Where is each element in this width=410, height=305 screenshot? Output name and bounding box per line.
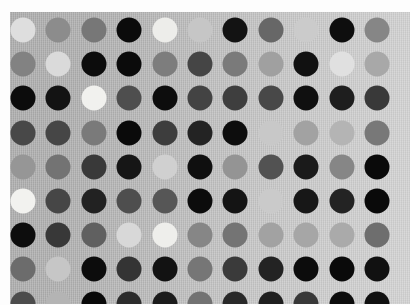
dot-r9c2 xyxy=(46,291,71,304)
dot-r6c3 xyxy=(81,189,106,214)
dot-r5c2 xyxy=(46,154,71,179)
fabric-swatch xyxy=(10,12,410,304)
dot-r1c8 xyxy=(258,18,283,43)
dot-r1c1 xyxy=(11,18,36,43)
dot-r8c8 xyxy=(258,257,283,282)
dot-r4c5 xyxy=(152,120,177,145)
dot-r8c4 xyxy=(117,257,142,282)
dot-r1c9 xyxy=(294,18,319,43)
dot-r7c7 xyxy=(223,223,248,248)
dot-r3c8 xyxy=(258,86,283,111)
dot-r8c11 xyxy=(365,257,390,282)
dot-r9c8 xyxy=(258,291,283,304)
dot-r2c9 xyxy=(294,52,319,77)
dot-r7c4 xyxy=(117,223,142,248)
dot-r3c11 xyxy=(365,86,390,111)
dot-r6c6 xyxy=(188,189,213,214)
dot-r3c4 xyxy=(117,86,142,111)
dot-r2c11 xyxy=(365,52,390,77)
dot-r6c8 xyxy=(258,189,283,214)
dot-r9c10 xyxy=(329,291,354,304)
dot-r9c4 xyxy=(117,291,142,304)
dot-r9c11 xyxy=(365,291,390,304)
dot-r9c1 xyxy=(11,291,36,304)
dot-r5c9 xyxy=(294,154,319,179)
dot-r3c9 xyxy=(294,86,319,111)
dot-r7c6 xyxy=(188,223,213,248)
dot-r4c8 xyxy=(258,120,283,145)
dot-r7c5 xyxy=(152,223,177,248)
dot-r8c1 xyxy=(11,257,36,282)
dot-r5c11 xyxy=(365,154,390,179)
dot-r8c9 xyxy=(294,257,319,282)
dot-r1c2 xyxy=(46,18,71,43)
dot-r6c5 xyxy=(152,189,177,214)
dot-r5c4 xyxy=(117,154,142,179)
dot-r4c7 xyxy=(223,120,248,145)
dot-r5c3 xyxy=(81,154,106,179)
dot-r2c8 xyxy=(258,52,283,77)
dot-r3c2 xyxy=(46,86,71,111)
dot-r8c3 xyxy=(81,257,106,282)
dot-r5c1 xyxy=(11,154,36,179)
dot-r1c7 xyxy=(223,18,248,43)
dot-r4c4 xyxy=(117,120,142,145)
dot-r4c9 xyxy=(294,120,319,145)
dot-r7c2 xyxy=(46,223,71,248)
dot-r4c2 xyxy=(46,120,71,145)
dot-r8c6 xyxy=(188,257,213,282)
dot-r4c6 xyxy=(188,120,213,145)
dot-r2c3 xyxy=(81,52,106,77)
dot-r8c5 xyxy=(152,257,177,282)
dot-r8c10 xyxy=(329,257,354,282)
dot-r3c6 xyxy=(188,86,213,111)
dot-r2c7 xyxy=(223,52,248,77)
dot-r1c10 xyxy=(329,18,354,43)
dot-r3c10 xyxy=(329,86,354,111)
polka-dot-layer xyxy=(10,12,410,304)
dot-r2c4 xyxy=(117,52,142,77)
dot-r2c10 xyxy=(329,52,354,77)
dot-r3c3 xyxy=(81,86,106,111)
dot-r1c11 xyxy=(365,18,390,43)
dot-r8c2 xyxy=(46,257,71,282)
dot-r9c6 xyxy=(188,291,213,304)
dot-r7c8 xyxy=(258,223,283,248)
dot-r1c6 xyxy=(188,18,213,43)
dot-r9c5 xyxy=(152,291,177,304)
dot-r3c1 xyxy=(11,86,36,111)
pattern-canvas xyxy=(0,0,410,305)
dot-r2c5 xyxy=(152,52,177,77)
dot-r4c3 xyxy=(81,120,106,145)
dot-r3c5 xyxy=(152,86,177,111)
dot-r1c3 xyxy=(81,18,106,43)
dot-r7c9 xyxy=(294,223,319,248)
dot-r6c10 xyxy=(329,189,354,214)
dot-r6c7 xyxy=(223,189,248,214)
dot-r4c1 xyxy=(11,120,36,145)
dot-r9c7 xyxy=(223,291,248,304)
dot-r6c2 xyxy=(46,189,71,214)
dot-r2c1 xyxy=(11,52,36,77)
dot-r4c10 xyxy=(329,120,354,145)
dot-r6c11 xyxy=(365,189,390,214)
dot-r5c8 xyxy=(258,154,283,179)
dot-r9c9 xyxy=(294,291,319,304)
dot-r6c4 xyxy=(117,189,142,214)
dot-r2c6 xyxy=(188,52,213,77)
dot-r7c3 xyxy=(81,223,106,248)
dot-r1c5 xyxy=(152,18,177,43)
dot-r9c3 xyxy=(81,291,106,304)
dot-r3c7 xyxy=(223,86,248,111)
dot-r7c11 xyxy=(365,223,390,248)
dot-r4c11 xyxy=(365,120,390,145)
dot-r1c4 xyxy=(117,18,142,43)
dot-r7c1 xyxy=(11,223,36,248)
dot-r6c1 xyxy=(11,189,36,214)
dot-r8c7 xyxy=(223,257,248,282)
dot-r2c2 xyxy=(46,52,71,77)
dot-r5c10 xyxy=(329,154,354,179)
dot-r6c9 xyxy=(294,189,319,214)
dot-r5c6 xyxy=(188,154,213,179)
dot-r5c7 xyxy=(223,154,248,179)
